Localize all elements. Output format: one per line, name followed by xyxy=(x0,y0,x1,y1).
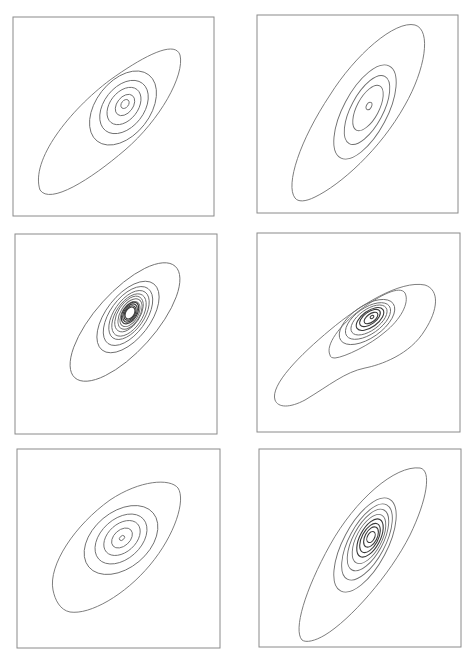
contour-level-5 xyxy=(345,509,392,568)
contour-level-1 xyxy=(292,25,425,201)
contour-level-2 xyxy=(321,489,409,601)
contour-level-6 xyxy=(119,98,131,110)
contour-level-6 xyxy=(118,535,125,542)
panel-frame xyxy=(257,15,458,213)
panel-frame xyxy=(17,449,220,648)
contour-level-1 xyxy=(52,482,180,612)
contour-panel-1 xyxy=(13,17,214,216)
contour-level-1 xyxy=(274,284,435,406)
contour-level-4 xyxy=(100,81,148,131)
contour-level-2 xyxy=(85,270,171,363)
contour-level-5 xyxy=(365,101,373,110)
contour-level-4 xyxy=(97,514,147,563)
contour-panel-3 xyxy=(15,234,217,434)
panel-frame xyxy=(257,233,460,432)
contour-level-2 xyxy=(76,58,170,157)
contour-level-3 xyxy=(85,504,156,574)
contour-panel-4 xyxy=(257,233,460,432)
panel-frame xyxy=(13,17,214,216)
contour-level-3 xyxy=(335,69,399,151)
contour-panel-5 xyxy=(17,449,220,648)
contour-level-9 xyxy=(370,315,375,320)
contour-level-1 xyxy=(299,468,427,642)
contour-panel-2 xyxy=(257,15,458,213)
contour-figure-grid xyxy=(0,0,473,662)
contour-level-3 xyxy=(332,291,403,354)
panel-frame xyxy=(15,234,217,434)
contour-canvas xyxy=(0,0,473,662)
contour-level-3 xyxy=(93,278,162,354)
contour-level-2 xyxy=(71,492,171,589)
contour-level-3 xyxy=(90,71,158,143)
contour-level-2 xyxy=(321,56,409,168)
contour-panel-6 xyxy=(259,449,461,647)
